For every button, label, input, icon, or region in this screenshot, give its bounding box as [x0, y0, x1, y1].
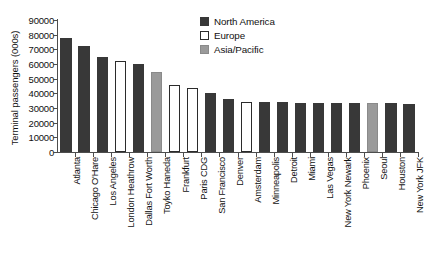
x-axis-category-label-text: Minneapolis	[269, 157, 283, 204]
legend-item-label: Europe	[214, 30, 245, 41]
legend-swatch-icon	[200, 31, 209, 40]
legend-item: Asia/Pacific	[200, 43, 320, 56]
x-axis-category-label: Las Vegas	[323, 157, 337, 199]
x-axis-category-label-text: Atlanta	[70, 157, 84, 185]
x-axis-category-label: Atlanta	[70, 157, 84, 185]
x-axis-category-label-text: Los Angeles	[106, 157, 120, 205]
bar	[367, 103, 378, 152]
bar	[331, 103, 342, 152]
x-axis-category-label-text: Amsterdam	[251, 157, 265, 203]
y-axis-tick-label: 40000	[29, 88, 54, 99]
x-axis-category-label-text: Seoul	[377, 157, 391, 180]
x-axis-category-label: Denver	[233, 157, 247, 186]
y-axis-tick-label: 20000	[29, 117, 54, 128]
x-axis-category-label: Detroit	[287, 157, 301, 183]
x-axis-category-label-text: Frankfurt	[179, 157, 193, 192]
x-axis-category-label: Miami	[305, 157, 319, 181]
legend-swatch-icon	[200, 45, 209, 54]
x-axis-category-label-text: New York JFK	[413, 157, 426, 213]
x-axis-category-label-text: Denver	[233, 157, 247, 186]
bar	[205, 93, 216, 152]
x-axis-category-label-text: San Francisco	[215, 157, 229, 214]
x-axis-category-label-text: Miami	[305, 157, 319, 181]
x-axis-category-label: Frankfurt	[179, 157, 193, 192]
x-axis-category-label: San Francisco	[215, 157, 229, 214]
x-axis-category-label: Toyko Haneda	[160, 157, 174, 214]
bar	[295, 103, 306, 152]
y-axis-tick-labels: 0100002000030000400005000060000700008000…	[16, 0, 54, 276]
x-axis-category-label: London Heathrow	[124, 157, 138, 227]
chart-legend: North AmericaEuropeAsia/Pacific	[200, 15, 320, 57]
y-axis-tick-label: 30000	[29, 103, 54, 114]
y-axis-tick-label: 90000	[29, 15, 54, 26]
legend-item-label: North America	[214, 16, 275, 27]
bar	[403, 104, 414, 152]
legend-item-label: Asia/Pacific	[214, 44, 263, 55]
legend-swatch-icon	[200, 17, 209, 26]
x-axis-category-label: Paris CDG	[197, 157, 211, 200]
x-axis-category-label-text: Dallas Fort Worth	[142, 157, 156, 226]
bar	[97, 57, 108, 152]
x-axis-category-label-text: Detroit	[287, 157, 301, 183]
bar	[133, 64, 144, 152]
bar	[313, 103, 324, 152]
x-axis-category-label-text: Chicago O'Hare	[88, 157, 102, 220]
x-axis-category-label-text: Phoenix	[359, 157, 373, 189]
y-axis-tick-label: 60000	[29, 59, 54, 70]
bar	[241, 102, 252, 152]
x-axis-category-label: Chicago O'Hare	[88, 157, 102, 220]
x-axis-category-label: Los Angeles	[106, 157, 120, 205]
y-axis-tick-mark	[53, 152, 57, 153]
bar	[60, 38, 71, 152]
x-axis-category-label: Minneapolis	[269, 157, 283, 204]
x-axis-category-label: New York Newark	[341, 157, 355, 227]
legend-item: Europe	[200, 29, 320, 42]
y-axis-tick-label: 70000	[29, 44, 54, 55]
y-axis-tick-label: 80000	[29, 29, 54, 40]
x-axis-category-label-text: Houston	[395, 157, 409, 190]
bar	[259, 102, 270, 152]
x-axis-category-label-text: Paris CDG	[197, 157, 211, 200]
bar	[187, 88, 198, 152]
x-axis-category-labels: AtlantaChicago O'HareLos AngelesLondon H…	[57, 157, 418, 276]
x-axis-category-label: Houston	[395, 157, 409, 190]
bar	[169, 85, 180, 152]
x-axis-category-label: Amsterdam	[251, 157, 265, 203]
x-axis-category-label: Dallas Fort Worth	[142, 157, 156, 226]
x-axis-category-label-text: New York Newark	[341, 157, 355, 227]
legend-item: North America	[200, 15, 320, 28]
x-axis-category-label-text: Las Vegas	[323, 157, 337, 199]
x-axis-category-label-text: London Heathrow	[124, 157, 138, 227]
x-axis-category-label: Seoul	[377, 157, 391, 180]
bar	[385, 103, 396, 152]
y-axis-tick-label: 10000	[29, 132, 54, 143]
bar	[151, 72, 162, 152]
bar	[78, 46, 89, 152]
bar	[115, 61, 126, 152]
bar	[277, 102, 288, 152]
bar-chart: Terminal passengers (000s) 0100002000030…	[0, 0, 426, 276]
x-axis-category-label: New York JFK	[413, 157, 426, 213]
x-axis-category-label-text: Toyko Haneda	[160, 157, 174, 214]
bar	[223, 99, 234, 152]
bar	[349, 103, 360, 152]
x-axis-category-label: Phoenix	[359, 157, 373, 189]
y-axis-tick-label: 50000	[29, 73, 54, 84]
